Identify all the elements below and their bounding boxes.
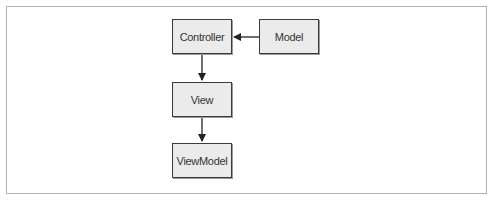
node-label: Controller [180,31,225,43]
node-viewmodel: ViewModel [172,143,232,178]
node-label: View [191,94,213,106]
diagram-edges [0,0,494,200]
node-model: Model [259,19,319,54]
node-view: View [172,82,232,117]
node-label: ViewModel [177,155,228,167]
node-label: Model [275,31,303,43]
node-controller: Controller [172,19,232,54]
